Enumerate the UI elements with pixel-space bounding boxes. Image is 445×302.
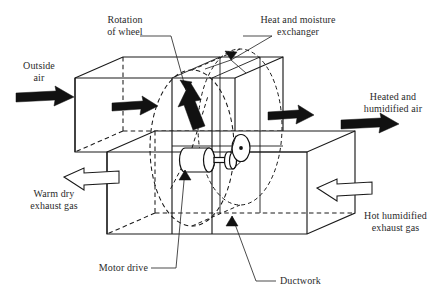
label-motor-drive: Motor drive [64,262,148,274]
leader-heat-moisture-exchanger [231,36,272,60]
label-rotation-of-wheel: Rotation of wheel [94,14,156,37]
wheel-hub-center-dot [239,146,243,150]
arrow-heated-humidified-outlet [341,113,399,133]
figure-container: Outside air Rotation of wheel Heat and m… [0,0,445,302]
diagram-canvas [0,0,445,302]
label-hot-humidified-exhaust-gas: Hot humidified exhaust gas [348,210,443,233]
arrow-outside-air-inlet [16,86,74,106]
label-heated-humidified-air: Heated and humidified air [345,91,441,114]
label-outside-air: Outside air [8,60,70,83]
label-heat-and-moisture-exchanger: Heat and moisture exchanger [244,14,352,37]
label-warm-dry-exhaust-gas: Warm dry exhaust gas [12,188,96,211]
label-ductwork: Ductwork [280,275,350,287]
motor-front-face [204,148,215,172]
